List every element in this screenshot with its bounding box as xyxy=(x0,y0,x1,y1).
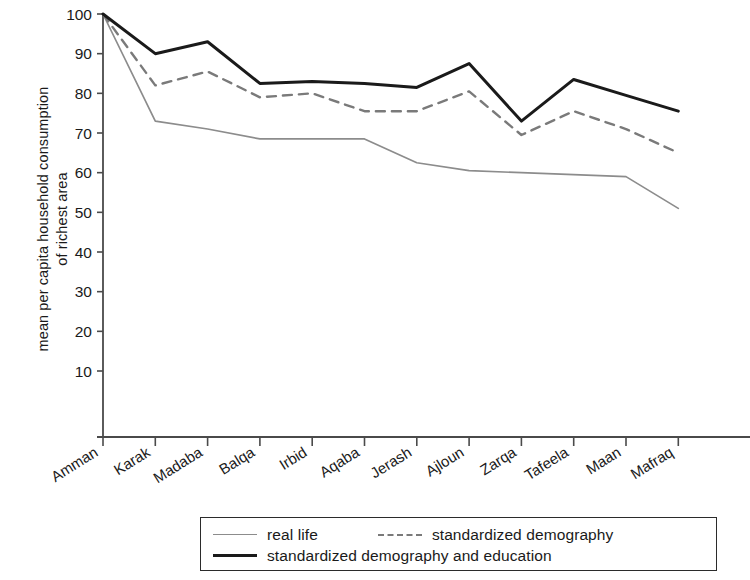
x-tick-label: Madaba xyxy=(150,443,206,486)
legend-row-2: standardized demography and education xyxy=(213,545,716,566)
y-tick-label: 40 xyxy=(75,244,93,261)
y-tick-label: 70 xyxy=(75,125,93,142)
legend-swatch-real-life-icon xyxy=(213,534,257,535)
data-series-lines xyxy=(103,14,678,208)
x-tick-label: Tafeela xyxy=(521,443,572,483)
x-tick-label: Amman xyxy=(48,443,101,485)
series-line xyxy=(103,14,678,121)
y-tick-label: 20 xyxy=(75,323,93,340)
x-tick-label: Aqaba xyxy=(316,443,362,481)
legend-label-standardized-demography: standardized demography xyxy=(432,526,614,544)
line-chart: mean per capita household consumption of… xyxy=(0,0,750,580)
y-tick-label: 80 xyxy=(75,85,93,102)
x-tick-label: Balqa xyxy=(216,443,258,478)
x-tick-label: Mafraq xyxy=(627,443,676,482)
x-axis-tick-labels: AmmanKarakMadabaBalqaIrbidAqabaJerashAjl… xyxy=(48,443,676,486)
x-tick-label: Karak xyxy=(111,443,154,478)
y-tick-label: 10 xyxy=(75,363,93,380)
x-tick-label: Zarqa xyxy=(477,443,520,479)
y-tick-label: 50 xyxy=(75,204,93,221)
y-axis-tick-labels: 102030405060708090100 xyxy=(66,6,92,380)
legend-item-standardized-demography: standardized demography xyxy=(378,524,614,545)
legend-row-1: real life standardized demography xyxy=(213,524,716,545)
x-tick-label: Maan xyxy=(583,443,624,477)
legend-item-real-life: real life xyxy=(213,524,318,545)
legend-swatch-standardized-demography-and-education-icon xyxy=(213,554,257,557)
chart-legend: real life standardized demography standa… xyxy=(200,517,717,571)
plot-area: 102030405060708090100 AmmanKarakMadabaBa… xyxy=(0,0,750,580)
y-tick-label: 30 xyxy=(75,283,93,300)
x-tick-label: Irbid xyxy=(276,443,310,473)
legend-item-standardized-demography-and-education: standardized demography and education xyxy=(213,545,552,566)
x-tick-label: Jerash xyxy=(367,443,414,481)
y-tick-label: 90 xyxy=(75,45,93,62)
y-tick-label: 60 xyxy=(75,164,93,181)
x-tick-label: Ajloun xyxy=(422,443,466,480)
legend-swatch-standardized-demography-icon xyxy=(378,534,422,536)
series-line xyxy=(103,14,678,208)
legend-label-real-life: real life xyxy=(267,526,318,544)
y-tick-label: 100 xyxy=(66,6,92,23)
legend-label-standardized-demography-and-education: standardized demography and education xyxy=(267,547,552,565)
x-axis-ticks xyxy=(103,437,678,446)
series-line xyxy=(103,14,678,153)
